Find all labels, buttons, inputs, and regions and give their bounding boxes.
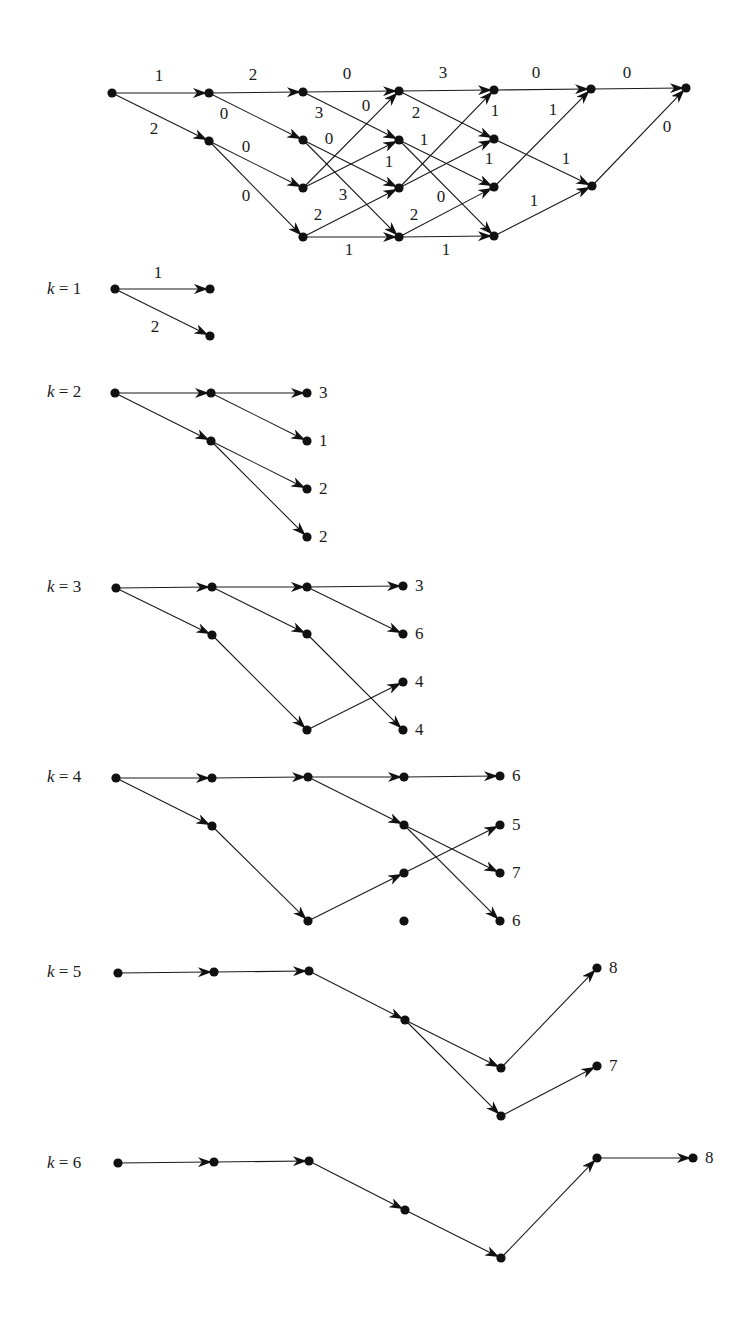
stage-node: [302, 484, 311, 493]
stage-edge: [307, 634, 400, 727]
stage-label: k = 6: [47, 1153, 81, 1172]
stage-edge: [214, 1161, 305, 1162]
stage-edge: [307, 586, 399, 587]
stage-edge: [404, 825, 496, 871]
stage-edge: [404, 827, 496, 873]
stage-edge-weight-label: 1: [154, 263, 163, 282]
stage-k4: k = 46576: [47, 766, 521, 930]
trellis-edge-weight-label: 2: [249, 65, 258, 84]
terminal-value-label: 7: [512, 863, 521, 882]
stage-node: [207, 582, 216, 591]
trellis-edge: [303, 140, 395, 186]
trellis-edge-weight-label: 1: [491, 101, 500, 120]
trellis-node: [489, 231, 498, 240]
stage-node: [110, 388, 119, 397]
trellis-node: [394, 232, 403, 241]
trellis-node: [394, 86, 403, 95]
trellis-node: [586, 84, 595, 93]
stage-edge: [501, 1161, 594, 1258]
stage-k6: k = 68: [47, 1148, 714, 1263]
trellis-edge-weight-label: 0: [362, 96, 371, 115]
stage-node: [399, 772, 408, 781]
trellis-edge-weight-label: 0: [532, 63, 541, 82]
trellis-edge: [303, 91, 395, 92]
stage-edge: [115, 393, 207, 439]
stage-edge: [501, 971, 594, 1068]
stage-edge: [404, 825, 497, 918]
stage-node: [399, 820, 408, 829]
stage-node: [206, 436, 215, 445]
stage-node: [205, 331, 214, 340]
trellis-edge: [494, 89, 587, 90]
stage-edge: [405, 1020, 497, 1066]
trellis-node: [298, 87, 307, 96]
stage-k3: k = 33644: [47, 576, 424, 739]
stage-node: [110, 284, 119, 293]
trellis-edge-weight-label: 2: [412, 103, 421, 122]
stage-edge: [115, 289, 206, 334]
terminal-value-label: 3: [415, 576, 424, 595]
stage-node: [302, 725, 311, 734]
trellis-node: [587, 181, 596, 190]
trellis-node: [298, 135, 307, 144]
stage-edge: [211, 441, 303, 487]
trellis-edge: [399, 236, 490, 237]
stage-node: [398, 629, 407, 638]
trellis-edge-weight-label: 1: [530, 191, 539, 210]
stage-k5: k = 587: [47, 958, 618, 1121]
stage-node: [398, 677, 407, 686]
stage-edge: [309, 971, 401, 1018]
stage-edge: [307, 684, 399, 730]
stage-node: [111, 583, 120, 592]
stage-node: [592, 1061, 601, 1070]
stage-edge: [212, 587, 303, 632]
stage-node: [400, 1015, 409, 1024]
stage-node: [398, 581, 407, 590]
trellis-edge: [303, 142, 395, 188]
trellis-edge: [399, 141, 490, 188]
trellis-figure: 1220000303012132101121011100 k = 112k = …: [0, 0, 755, 1331]
trellis-node: [681, 83, 690, 92]
trellis-edge-weight-label: 0: [242, 186, 251, 205]
trellis-node: [204, 136, 213, 145]
stage-node: [495, 771, 504, 780]
stage-node: [302, 582, 311, 591]
stage-edge: [308, 777, 400, 823]
full-trellis-graph: 1220000303012132101121011100: [107, 63, 690, 259]
trellis-edge: [209, 141, 299, 186]
trellis-edge-weight-label: 1: [549, 100, 558, 119]
trellis-edge: [209, 141, 300, 234]
trellis-edge: [112, 93, 205, 139]
trellis-edge-weight-label: 2: [150, 119, 159, 138]
terminal-value-label: 6: [415, 624, 424, 643]
terminal-value-label: 6: [512, 766, 521, 785]
terminal-value-label: 4: [415, 672, 424, 691]
stage-label: k = 1: [47, 279, 81, 298]
stage-node: [496, 1063, 505, 1072]
trellis-edge-weight-label: 1: [485, 149, 494, 168]
stage-node: [111, 773, 120, 782]
trellis-edge-weight-label: 3: [439, 63, 448, 82]
trellis-edge: [399, 140, 490, 185]
stage-node: [113, 968, 122, 977]
terminal-value-label: 8: [705, 1148, 714, 1167]
trellis-edge: [494, 139, 588, 184]
stage-node: [399, 868, 408, 877]
trellis-edge-weight-label: 1: [155, 66, 164, 85]
stage-node: [113, 1158, 122, 1167]
trellis-edge: [399, 90, 490, 91]
stage-edge: [405, 1020, 498, 1113]
trellis-edge-weight-label: 0: [325, 129, 334, 148]
stage-node: [304, 966, 313, 975]
stage-node: [398, 725, 407, 734]
trellis-node: [489, 182, 498, 191]
trellis-edge-weight-label: 0: [242, 137, 251, 156]
stage-node: [302, 388, 311, 397]
trellis-node: [489, 134, 498, 143]
stage-k1: k = 112: [47, 263, 215, 341]
stage-node: [303, 772, 312, 781]
terminal-value-label: 7: [609, 1056, 618, 1075]
stage-label: k = 2: [47, 382, 81, 401]
trellis-edge-weight-label: 3: [315, 103, 324, 122]
stage-node: [302, 629, 311, 638]
